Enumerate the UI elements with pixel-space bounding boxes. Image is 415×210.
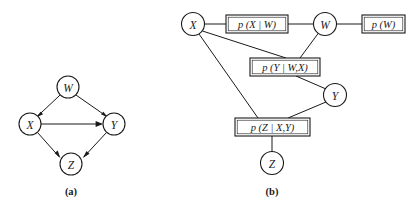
node-z-panel-b: Z	[261, 152, 284, 175]
factor-p-w: p (W)	[362, 15, 405, 33]
factor-p-z-given-x-y-label: p (Z | X,Y)	[250, 122, 295, 134]
node-w-panel-b-label: W	[320, 19, 331, 31]
node-y-panel-a: Y	[103, 113, 125, 135]
node-x-panel-a-label: X	[25, 119, 34, 131]
node-y-panel-b: Y	[324, 84, 347, 107]
node-z-panel-b-label: Z	[269, 158, 276, 170]
node-w-panel-a-label: W	[63, 82, 74, 94]
edge-y-to-fzxy	[288, 102, 326, 118]
node-z-panel-a: Z	[60, 153, 82, 175]
panel-a-caption: (a)	[65, 186, 78, 198]
edge-w-to-x	[36, 95, 60, 118]
edge-x-to-fywx	[203, 31, 287, 58]
factor-p-y-given-w-x: p (Y | W,X)	[250, 58, 320, 76]
edge-x-to-z	[38, 133, 61, 159]
edge-y-to-z	[83, 133, 107, 159]
factor-p-x-given-w: p (X | W)	[226, 15, 288, 33]
node-x-panel-a: X	[19, 113, 41, 135]
node-z-panel-a-label: Z	[68, 159, 75, 171]
node-w-panel-a: W	[57, 76, 79, 98]
node-x-panel-b-label: X	[188, 19, 197, 31]
factor-p-z-given-x-y: p (Z | X,Y)	[235, 118, 310, 136]
edge-w-to-y	[76, 95, 108, 118]
edge-fywx-to-y	[296, 76, 326, 89]
factor-p-y-given-w-x-label: p (Y | W,X)	[261, 62, 308, 74]
figure-page: W X Y Z (a)	[0, 0, 415, 210]
factor-p-w-label: p (W)	[371, 19, 396, 31]
node-x-panel-b: X	[182, 13, 205, 36]
edge-w-to-fywx	[300, 33, 319, 58]
panel-b: p (X | W) p (W) p (Y | W,X) p (Z | X,Y)	[182, 13, 406, 198]
figure-canvas: W X Y Z (a)	[0, 0, 415, 210]
panel-a: W X Y Z (a)	[19, 76, 125, 198]
panel-b-caption: (b)	[266, 186, 279, 198]
factor-p-x-given-w-label: p (X | W)	[237, 19, 277, 31]
edge-x-to-y	[41, 121, 103, 127]
node-w-panel-b: W	[314, 13, 337, 36]
